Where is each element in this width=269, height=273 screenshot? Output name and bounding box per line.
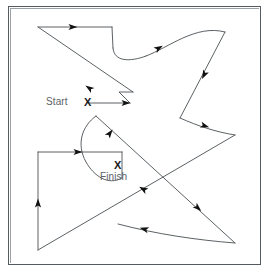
path-segment — [119, 92, 133, 103]
arrow-diagonal-down-right — [193, 203, 204, 214]
arrowhead-glyph — [193, 203, 204, 214]
arrow-long-diagonal-down-left — [138, 184, 149, 194]
finish-label: Finish — [100, 171, 127, 182]
path-arrow-group — [35, 24, 210, 233]
path-segment — [38, 27, 133, 92]
arrowhead-glyph — [138, 184, 149, 194]
path-segment — [180, 32, 225, 118]
path-drawing-layer — [0, 0, 269, 273]
path-segment — [146, 30, 225, 56]
path-segment — [113, 48, 146, 60]
arrow-diagonal-down-left — [84, 83, 95, 93]
path-segment — [112, 27, 113, 48]
path-segment-group — [38, 27, 235, 250]
finish-x-marker: X — [114, 160, 121, 171]
arrowhead-glyph — [84, 83, 95, 93]
start-label: Start — [46, 96, 68, 107]
maze-path-figure: Start X Finish X — [0, 0, 269, 273]
start-x-marker: X — [84, 97, 91, 108]
